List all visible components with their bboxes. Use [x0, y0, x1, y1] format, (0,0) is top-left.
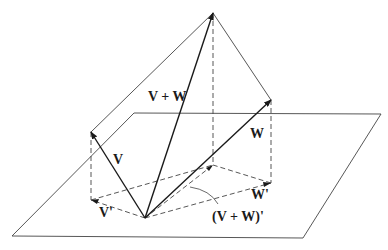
- label-sum-proj: (V + W)': [212, 210, 264, 224]
- edge-w-to-apex: [213, 13, 271, 100]
- proj-origin-to-sum: [145, 165, 213, 218]
- label-w: W: [250, 127, 264, 141]
- vector-diagram: [0, 0, 388, 250]
- label-v-plus-w: V + W: [148, 90, 187, 104]
- edge-v-to-apex: [91, 13, 213, 132]
- proj-w-to-sum: [213, 165, 271, 183]
- label-v: V: [113, 153, 123, 167]
- sum-proj-leader: [190, 187, 218, 204]
- label-w-proj: W': [251, 188, 269, 202]
- label-v-proj: V': [99, 206, 113, 220]
- plane: [12, 113, 381, 238]
- vector-v-plus-w: [145, 13, 213, 218]
